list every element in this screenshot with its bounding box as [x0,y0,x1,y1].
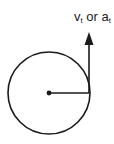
tangent-vector-arrowhead-icon [85,32,94,45]
tangent-vector-label: vt or at [74,9,111,25]
label-a: a [102,9,109,24]
label-a-subscript: t [109,16,111,25]
label-or: or [83,9,102,24]
